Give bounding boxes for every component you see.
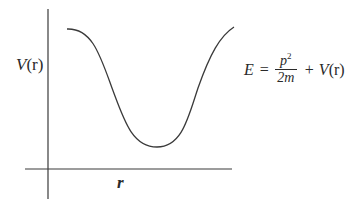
eq-plus: + bbox=[305, 61, 314, 79]
eq-num-exp: 2 bbox=[287, 51, 292, 61]
eq-equals: = bbox=[260, 61, 269, 79]
y-label-symbol: V bbox=[16, 55, 26, 74]
x-axis-label: r bbox=[117, 173, 124, 193]
eq-frac-numerator: p2 bbox=[279, 54, 293, 68]
eq-num-base: p bbox=[280, 53, 287, 68]
y-axis-label: V(r) bbox=[16, 55, 43, 75]
eq-lhs: E bbox=[244, 61, 254, 79]
potential-curve bbox=[67, 27, 234, 147]
energy-equation: E = p2 2m + V(r) bbox=[244, 54, 345, 85]
eq-potential-symbol: V bbox=[319, 61, 329, 79]
y-label-arg: (r) bbox=[26, 55, 43, 74]
eq-fraction: p2 2m bbox=[275, 54, 297, 85]
eq-frac-denominator: 2m bbox=[277, 71, 294, 85]
potential-plot bbox=[0, 0, 345, 209]
diagram-canvas: V(r) r E = p2 2m + V(r) bbox=[0, 0, 345, 209]
eq-potential-arg: (r) bbox=[329, 61, 345, 79]
